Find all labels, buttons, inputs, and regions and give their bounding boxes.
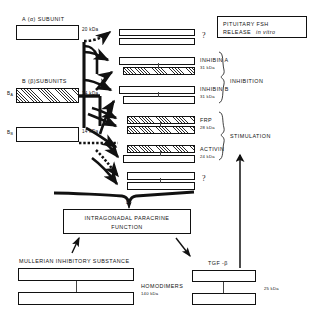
diagram-canvas: PITUITARY FSH RELEASE in vitro A (α) SUB…	[0, 0, 319, 327]
inhibition-brace	[219, 52, 224, 103]
beta-b-to-inhibin-b-curve	[100, 101, 114, 134]
paracrine-to-tgfbeta-arrow	[176, 238, 190, 256]
stimulation-brace	[219, 112, 224, 160]
alpha-to-unknown-dotted-arrow	[84, 32, 110, 41]
diagram-linework	[0, 0, 319, 327]
alpha-trunk-elbow	[84, 46, 97, 74]
mis-to-paracrine-arrow	[72, 238, 79, 253]
paracrine-collection-brace	[54, 192, 194, 203]
